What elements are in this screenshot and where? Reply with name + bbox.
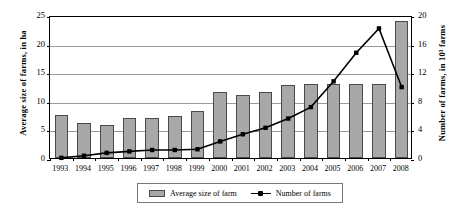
line-marker-2004	[309, 105, 313, 109]
line-marker-1997	[150, 148, 154, 152]
farm-statistics-chart: Average size of farms, in ha Number of f…	[0, 0, 461, 209]
chart-legend: Average size of farm Number of farms	[137, 183, 343, 203]
y-axis-left-title: Average size of farms, in ha	[18, 8, 28, 158]
y-tick-label-left: 5	[33, 124, 45, 134]
y-tick-label-right: 0	[418, 153, 422, 163]
y-tick-label-left: 20	[33, 39, 45, 49]
line-marker-2000	[218, 139, 222, 143]
y-tick-mark-right	[411, 160, 414, 161]
line-series	[50, 17, 413, 160]
y-tick-label-right: 8	[418, 96, 422, 106]
y-tick-label-right: 16	[418, 39, 427, 49]
line-marker-2007	[377, 26, 381, 30]
line-marker-1998	[173, 148, 177, 152]
y-tick-label-right: 20	[418, 10, 427, 20]
number-of-farms-line	[61, 28, 401, 157]
line-marker-2002	[263, 126, 267, 130]
legend-label-number-of-farms: Number of farms	[276, 189, 331, 198]
line-marker-2003	[286, 116, 290, 120]
bar-swatch-icon	[149, 190, 165, 197]
line-marker-1994	[82, 154, 86, 158]
legend-label-average-size-of-farm: Average size of farm	[170, 189, 237, 198]
line-swatch-icon	[251, 190, 271, 197]
y-tick-label-left: 0	[33, 153, 45, 163]
y-tick-label-right: 12	[418, 67, 427, 77]
line-marker-2001	[241, 132, 245, 136]
legend-item-number-of-farms: Number of farms	[251, 189, 331, 198]
x-tick-label-2008: 2008	[388, 164, 414, 173]
y-tick-label-left: 10	[33, 96, 45, 106]
line-marker-1995	[105, 151, 109, 155]
y-tick-label-right: 4	[418, 124, 422, 134]
y-tick-label-left: 25	[33, 10, 45, 20]
plot-area	[49, 16, 412, 159]
y-axis-right-title: Number of farms, in 10³ farms	[437, 8, 447, 158]
legend-item-average-size-of-farm: Average size of farm	[149, 189, 237, 198]
y-tick-label-left: 15	[33, 67, 45, 77]
line-marker-2006	[354, 51, 358, 55]
line-marker-1996	[127, 149, 131, 153]
line-marker-2005	[331, 79, 335, 83]
line-marker-2008	[399, 85, 403, 89]
number-of-farms-markers	[59, 26, 404, 160]
line-marker-1999	[195, 147, 199, 151]
line-marker-1993	[59, 156, 63, 160]
